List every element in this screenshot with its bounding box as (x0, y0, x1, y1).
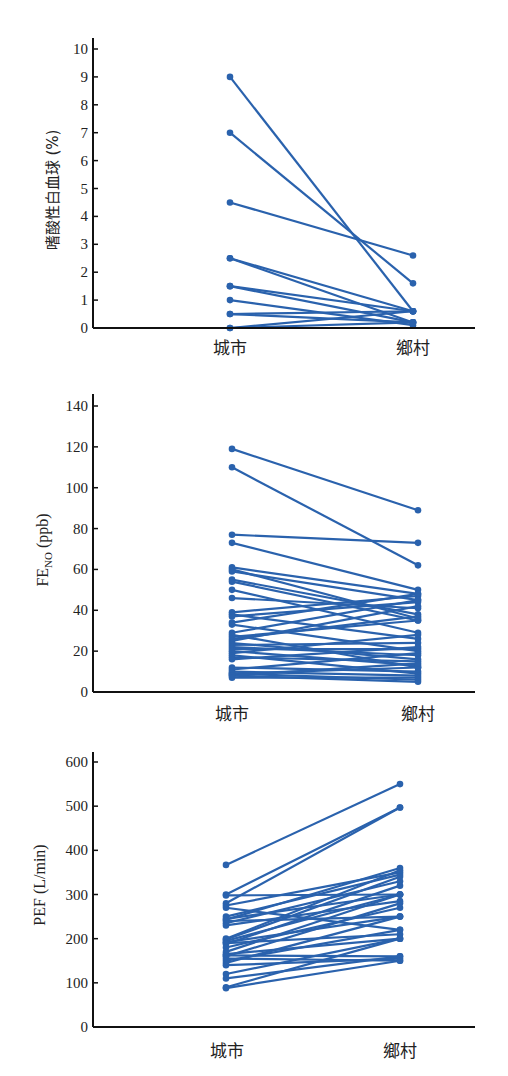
data-point (410, 319, 417, 326)
data-point (229, 531, 236, 538)
data-point (415, 674, 422, 681)
subject-line (230, 314, 413, 322)
subject-line (232, 567, 418, 594)
y-axis-label: PEF (L/min) (31, 844, 49, 925)
data-point (229, 568, 236, 575)
data-point (397, 935, 404, 942)
data-point (397, 957, 404, 964)
subject-line (230, 133, 413, 284)
data-point (227, 129, 234, 136)
data-point (410, 280, 417, 287)
data-point (415, 650, 422, 657)
data-point (397, 900, 404, 907)
data-point (415, 613, 422, 620)
data-point (229, 656, 236, 663)
y-tick-label: 0 (81, 684, 89, 700)
y-axis-label: 嗜酸性白血球 (%) (44, 130, 62, 251)
y-tick-label: 4 (81, 208, 89, 224)
y-tick-label: 10 (73, 41, 88, 57)
data-point (397, 891, 404, 898)
data-point (415, 632, 422, 639)
data-point (223, 975, 230, 982)
data-point (227, 255, 234, 262)
data-point (415, 644, 422, 651)
eosinophil-chart: 012345678910 城市 鄉村 嗜酸性白血球 (%) (44, 38, 475, 358)
y-tick-label: 2 (81, 264, 89, 280)
pef-chart: 0100200300400500600 城市 鄉村 PEF (L/min) (31, 752, 475, 1061)
paired-lines (227, 74, 417, 332)
subject-line (232, 449, 418, 510)
data-point (229, 446, 236, 453)
category-label-urban: 城市 (213, 338, 247, 358)
y-tick-label: 20 (73, 643, 88, 659)
data-point (229, 578, 236, 585)
feno-chart: 020406080100120140 城市 鄉村 FENO (ppb) (34, 394, 475, 724)
y-tick-label: 0 (81, 320, 89, 336)
y-tick-label: 200 (66, 931, 89, 947)
y-tick-label: 40 (73, 602, 88, 618)
data-point (415, 591, 422, 598)
y-axis-label: FENO (ppb) (34, 513, 54, 586)
data-point (223, 962, 230, 969)
paired-lines (223, 781, 404, 992)
data-point (415, 597, 422, 604)
data-point (410, 308, 417, 315)
category-label-rural: 鄉村 (401, 704, 435, 724)
y-tick-label: 100 (66, 975, 89, 991)
y-tick-label: 0 (81, 1019, 89, 1035)
data-point (223, 862, 230, 869)
y-tick-label: 600 (66, 754, 89, 770)
data-point (397, 867, 404, 874)
data-point (410, 252, 417, 259)
data-point (415, 660, 422, 667)
data-point (415, 603, 422, 610)
y-tick-label: 80 (73, 521, 88, 537)
data-point (229, 595, 236, 602)
data-point (397, 781, 404, 788)
y-tick-label: 8 (81, 97, 89, 113)
data-point (223, 985, 230, 992)
data-point (397, 874, 404, 881)
data-point (397, 882, 404, 889)
data-point (415, 540, 422, 547)
data-point (397, 804, 404, 811)
y-label-subscript: NO (42, 552, 54, 568)
y-tick-label: 300 (66, 887, 89, 903)
data-point (227, 199, 234, 206)
data-point (227, 311, 234, 318)
y-label-unit: (ppb) (34, 513, 52, 552)
data-point (229, 464, 236, 471)
data-point (223, 904, 230, 911)
data-point (229, 613, 236, 620)
data-point (227, 283, 234, 290)
y-tick-label: 140 (66, 398, 89, 414)
y-tick-label: 1 (81, 292, 89, 308)
data-point (397, 927, 404, 934)
figure: 012345678910 城市 鄉村 嗜酸性白血球 (%) 0204060801… (0, 0, 508, 1076)
y-tick-label: 400 (66, 842, 89, 858)
data-point (415, 507, 422, 514)
data-point (229, 587, 236, 594)
subject-line (226, 784, 400, 865)
y-tick-label: 120 (66, 439, 89, 455)
y-tick-label: 500 (66, 798, 89, 814)
subject-line (230, 202, 413, 255)
category-label-urban: 城市 (215, 704, 249, 724)
data-point (227, 74, 234, 81)
subject-line (232, 535, 418, 543)
y-tick-label: 60 (73, 561, 88, 577)
data-point (397, 913, 404, 920)
category-label-rural: 鄉村 (396, 338, 430, 358)
y-tick-label: 7 (81, 125, 89, 141)
category-label-rural: 鄉村 (383, 1041, 417, 1061)
data-point (229, 674, 236, 681)
data-point (223, 922, 230, 929)
y-ticks: 012345678910 (73, 41, 98, 336)
data-point (229, 540, 236, 547)
y-tick-label: 5 (81, 181, 89, 197)
data-point (227, 297, 234, 304)
category-label-urban: 城市 (210, 1041, 244, 1061)
y-tick-label: 100 (66, 480, 89, 496)
data-point (223, 892, 230, 899)
y-tick-label: 3 (81, 236, 89, 252)
